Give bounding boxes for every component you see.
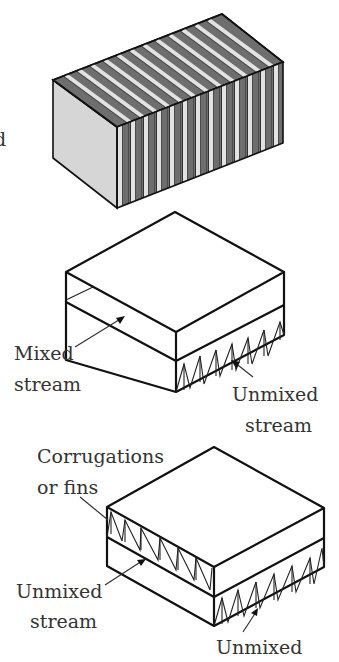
fins-label-line2: or fins [37, 476, 98, 498]
unmixed-stream-pointer [231, 360, 253, 377]
unmixed-left-label-line1: Unmixed [16, 580, 102, 602]
single-corrugated-exchanger: Mixed stream Unmixed stream [14, 212, 318, 436]
unmixed-stream-label-line1: Unmixed [232, 383, 318, 405]
heat-exchanger-diagram: d Mixed stream [0, 0, 339, 662]
top-face [66, 212, 284, 332]
unmixed-stream-label-line2: stream [245, 414, 312, 436]
unmixed-bottom-label: Unmixed [216, 636, 302, 658]
mixed-stream-label-line2: stream [14, 373, 81, 395]
cross-corrugated-exchanger: Corrugations or fins Unmixed stream Unmi… [16, 445, 324, 658]
fins-pointer [80, 497, 108, 520]
mixed-stream-label-line1: Mixed [14, 342, 74, 364]
fins-label-line1: Corrugations [37, 445, 164, 467]
stacked-plates-block: d [0, 14, 283, 208]
corrugation-fins-upper [107, 512, 212, 590]
unmixed-left-pointer [105, 559, 146, 585]
unmixed-left-label-line2: stream [30, 610, 97, 632]
partial-caption-glyph: d [0, 128, 6, 150]
